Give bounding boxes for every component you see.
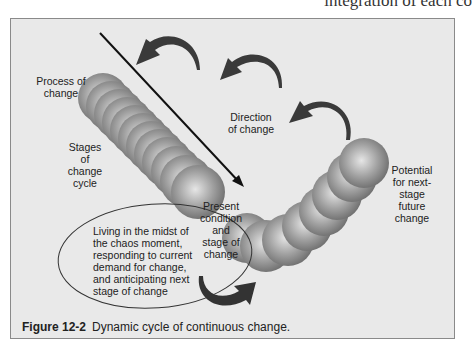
label-direction-of-change: Direction of change <box>226 111 276 135</box>
figure-number: Figure 12-2 <box>22 320 86 334</box>
label-potential-future-change: Potential for next-stage future change <box>385 164 439 224</box>
figure-caption: Figure 12-2Dynamic cycle of continuous c… <box>22 320 290 334</box>
label-living-in-chaos: Living in the midst of the chaos moment,… <box>93 225 199 297</box>
label-stages-of-change-cycle: Stages of change cycle <box>63 141 107 189</box>
curved-arrow-icon <box>289 101 351 140</box>
label-process-of-change: Process of change <box>30 75 92 99</box>
label-present-condition: Present condition and stage of change <box>200 200 242 260</box>
curved-arrow-icon <box>199 276 256 306</box>
future-spheres <box>222 138 389 272</box>
figure-caption-text: Dynamic cycle of continuous change. <box>92 320 290 334</box>
curved-arrow-icon <box>220 54 282 88</box>
curved-arrow-icon <box>136 36 200 70</box>
